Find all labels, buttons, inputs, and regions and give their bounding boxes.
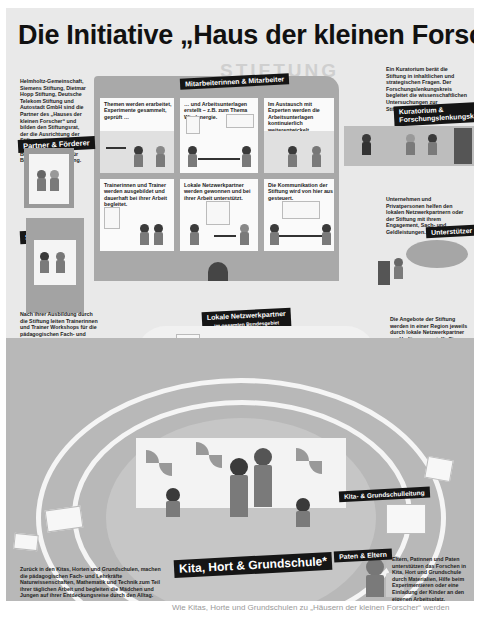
person-icon [50,170,59,192]
person-icon [406,134,415,156]
stiftung-building: Themen werden erarbeitet, Experimente ge… [94,76,339,281]
person-icon [428,134,437,156]
experts-scene [264,131,334,173]
photo-icon [13,533,39,551]
cell-themen: Themen werden erarbeitet, Experimente ge… [100,98,174,173]
caption: Wie Kitas, Horte und Grundschulen zu „Hä… [172,603,449,612]
calendar-board-icon [282,201,320,219]
table-icon [106,147,126,149]
person-icon [40,252,49,274]
person-icon [190,224,199,246]
person-icon [240,224,249,246]
paten-text: Eltern, Patinnen und Paten unterstützen … [392,556,470,601]
stiftung-door-icon [208,262,228,281]
kuratorium-hall [344,126,474,166]
person-icon [312,146,321,168]
person-icon [154,224,163,246]
pinwheel-icon [196,442,222,468]
label-kuratorium: Kuratorium & Forschungslenkungskreis [394,101,474,126]
desk-icon [198,158,240,160]
child-icon [296,498,310,528]
desk-icon [214,235,236,237]
partner-frame [24,148,74,208]
person-icon [37,170,46,192]
person-icon [242,146,251,168]
worksheet-icon [186,116,200,134]
door-icon [378,261,390,285]
photo-icon [424,456,453,482]
pinwheel-icon [146,450,172,476]
cell-kommunikation: Die Kommunikation der Stiftung wird von … [264,179,334,251]
person-icon [394,258,403,280]
cell-austausch: Im Austausch mit Experten werden die Arb… [264,98,334,173]
workshop-scene [100,131,174,173]
person-icon [322,224,331,246]
teacher-icon [230,458,248,518]
stiftungsrat-frame [26,218,84,313]
person-icon [188,146,197,168]
page-title: Die Initiative „Haus der kleinen Forsche… [18,20,474,51]
person-icon [288,146,297,168]
person-icon [156,146,165,168]
zeppelin-icon [406,240,468,268]
screen-icon [226,114,254,128]
infographic-page: Die Initiative „Haus der kleinen Forsche… [6,8,474,601]
cell-netzwerkpartner: Lokale Netzwerkpartner werden gewonnen u… [180,179,258,251]
child-icon [166,488,180,518]
teacher-icon [254,448,272,508]
person-icon [140,224,149,246]
parent-icon [366,558,384,598]
leitung-desk-card [386,504,426,534]
desk-icon [278,235,322,237]
person-icon [362,134,371,156]
kita-text: Zurück in den Kitas, Horten und Grundsch… [20,566,166,599]
person-icon [270,224,279,246]
flipchart-icon [104,207,120,229]
person-icon [56,252,65,274]
door-icon [454,128,472,164]
label-unterstuetzer: Unterstützer [426,225,474,239]
cell-trainer: Trainerinnen und Trainer werden ausgebil… [100,179,174,251]
cell-arbeitsunterlagen: … und Arbeitsunterlagen erstellt – z.B. … [180,98,258,173]
person-icon [134,146,143,168]
map-icon [206,201,230,225]
pinwheel-icon [296,448,322,474]
